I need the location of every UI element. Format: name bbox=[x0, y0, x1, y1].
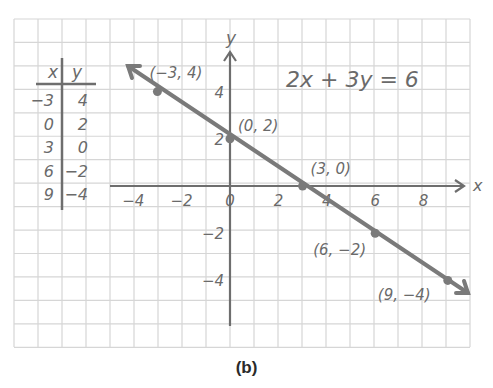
x-tick-label: 2 bbox=[274, 192, 284, 210]
table-cell-y: 2 bbox=[78, 115, 88, 134]
point-label: (9, −4) bbox=[378, 286, 431, 304]
x-tick-label: −4 bbox=[122, 192, 144, 210]
point-label: (−3, 4) bbox=[149, 64, 202, 82]
equation-text: 2x + 3y = 6 bbox=[286, 67, 419, 92]
x-tick-label: 8 bbox=[419, 192, 429, 210]
table-cell-x: −3 bbox=[30, 91, 54, 110]
x-tick-label: −2 bbox=[171, 192, 193, 210]
y-tick-label: −4 bbox=[202, 272, 224, 290]
axes bbox=[110, 52, 464, 326]
y-axis-label: y bbox=[225, 28, 237, 48]
table-header-y: y bbox=[71, 62, 83, 82]
figure-caption: (b) bbox=[0, 358, 493, 378]
data-point bbox=[226, 134, 235, 143]
y-tick-label: 2 bbox=[214, 131, 224, 149]
y-tick-label: −2 bbox=[202, 225, 224, 243]
equation-line bbox=[128, 66, 468, 293]
x-tick-label: 6 bbox=[370, 192, 380, 210]
table-cell-x: 3 bbox=[44, 138, 54, 157]
table-cell-y: 4 bbox=[78, 91, 88, 110]
table-cell-y: 0 bbox=[78, 138, 88, 157]
point-label: (0, 2) bbox=[238, 117, 278, 135]
table-cell-x: 0 bbox=[44, 115, 54, 134]
table-cell-x: 6 bbox=[44, 162, 54, 181]
x-axis-label: x bbox=[472, 176, 483, 195]
table-header-x: x bbox=[47, 62, 59, 82]
data-point bbox=[443, 276, 452, 285]
point-label: (3, 0) bbox=[311, 160, 351, 178]
data-points: (−3, 4)(0, 2)(3, 0)(6, −2)(9, −4) bbox=[149, 64, 452, 305]
table-cell-x: 9 bbox=[44, 185, 54, 204]
y-tick-label: 4 bbox=[214, 84, 224, 102]
x-tick-label: 0 bbox=[225, 192, 235, 210]
graph-figure: x y −3402306−29−4 x y −4−20246842−2−4 (−… bbox=[0, 0, 493, 388]
data-point bbox=[371, 229, 380, 238]
table-cell-y: −2 bbox=[64, 162, 88, 181]
data-point bbox=[298, 182, 307, 191]
table-cell-y: −4 bbox=[64, 185, 88, 204]
point-label: (6, −2) bbox=[313, 241, 366, 259]
data-point bbox=[153, 87, 162, 96]
